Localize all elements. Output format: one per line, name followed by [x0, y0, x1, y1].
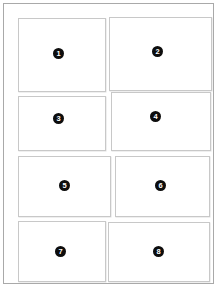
panel-badge-8: 8: [153, 246, 164, 257]
panel-3[interactable]: [18, 96, 106, 151]
panel-badge-1: 1: [53, 48, 64, 59]
panel-badge-3: 3: [53, 113, 64, 124]
panel-badge-7: 7: [55, 246, 66, 257]
panel-badge-6: 6: [155, 180, 166, 191]
document-frame: 1 2 3 4 5 6 7 8: [3, 3, 214, 284]
panel-4[interactable]: [111, 92, 211, 151]
panel-badge-4: 4: [150, 111, 161, 122]
panel-badge-2: 2: [152, 46, 163, 57]
page-canvas: 1 2 3 4 5 6 7 8: [0, 0, 222, 292]
panel-badge-5: 5: [59, 180, 70, 191]
